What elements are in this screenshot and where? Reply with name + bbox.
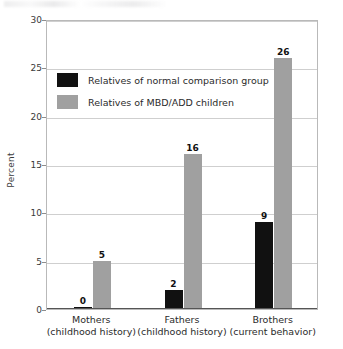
- y-axis-tick-label: 5: [2, 257, 42, 266]
- x-axis-category-name: Brothers: [203, 314, 343, 326]
- bar-value-label: 26: [268, 48, 298, 57]
- legend-swatch-icon-normal-comparison: [57, 73, 78, 87]
- y-axis-tick-label: 15: [2, 161, 42, 170]
- legend-item-normal-comparison: Relatives of normal comparison group: [57, 69, 269, 91]
- legend-label-mbd-add: Relatives of MBD/ADD children: [88, 97, 234, 108]
- y-axis-tick-label: 10: [2, 209, 42, 218]
- y-axis-tick-label: 20: [2, 112, 42, 121]
- x-axis-baseline: [47, 308, 317, 309]
- gridline: [47, 21, 317, 22]
- legend-label-normal-comparison: Relatives of normal comparison group: [88, 75, 269, 86]
- bar: [165, 290, 183, 309]
- bar: [184, 154, 202, 309]
- y-axis-tick-label: 25: [2, 64, 42, 73]
- bar-chart-figure: Percent 051015202530 05216926 Relatives …: [0, 0, 343, 349]
- plot-area: 05216926 Relatives of normal comparison …: [46, 20, 318, 310]
- y-axis-tick-mark: [42, 310, 46, 311]
- bar: [274, 58, 292, 309]
- bar: [255, 222, 273, 309]
- x-axis-category-label: Brothers(current behavior): [203, 314, 343, 338]
- legend-item-mbd-add: Relatives of MBD/ADD children: [57, 91, 269, 113]
- chart-legend: Relatives of normal comparison group Rel…: [57, 69, 269, 113]
- bar-value-label: 5: [87, 251, 117, 260]
- bar-value-label: 16: [178, 144, 208, 153]
- x-axis-category-sublabel: (current behavior): [203, 326, 343, 338]
- y-axis-label: Percent: [6, 152, 16, 187]
- legend-swatch-icon-mbd-add: [57, 95, 78, 109]
- bar: [93, 261, 111, 309]
- y-axis-tick-label: 30: [2, 16, 42, 25]
